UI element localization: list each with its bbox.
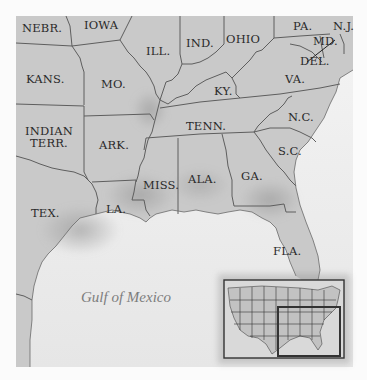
state-label-nj: N.J.	[333, 20, 354, 32]
state-label-del: DEL.	[300, 55, 330, 67]
inset-locator-map	[224, 280, 344, 358]
state-label-va: VA.	[285, 73, 305, 85]
state-label-mo: MO.	[101, 78, 126, 90]
state-label-tenn: TENN.	[186, 120, 226, 132]
water-label-gulf: Gulf of Mexico	[81, 289, 171, 306]
state-label-ky: KY.	[214, 85, 233, 97]
state-label-ind: IND.	[186, 37, 214, 49]
state-label-iowa: IOWA	[84, 19, 118, 31]
state-label-pa: PA.	[293, 20, 312, 32]
state-label-ga: GA.	[241, 170, 263, 182]
state-label-tex: TEX.	[31, 207, 60, 219]
state-label-ark: ARK.	[99, 139, 129, 151]
state-label-indian_terr: INDIAN TERR.	[25, 125, 73, 149]
state-label-nc: N.C.	[288, 111, 314, 123]
state-label-sc: S.C.	[278, 145, 302, 157]
state-label-kans: KANS.	[26, 73, 65, 85]
state-label-miss: MISS.	[143, 179, 179, 191]
state-label-nebr: NEBR.	[22, 22, 62, 34]
state-label-fla: FLA.	[273, 245, 301, 257]
state-label-ohio: OHIO	[226, 33, 260, 45]
state-label-la: LA.	[106, 203, 126, 215]
state-label-ill: ILL.	[146, 45, 170, 57]
state-label-md: MD.	[313, 35, 338, 47]
state-label-ala: ALA.	[188, 173, 217, 185]
